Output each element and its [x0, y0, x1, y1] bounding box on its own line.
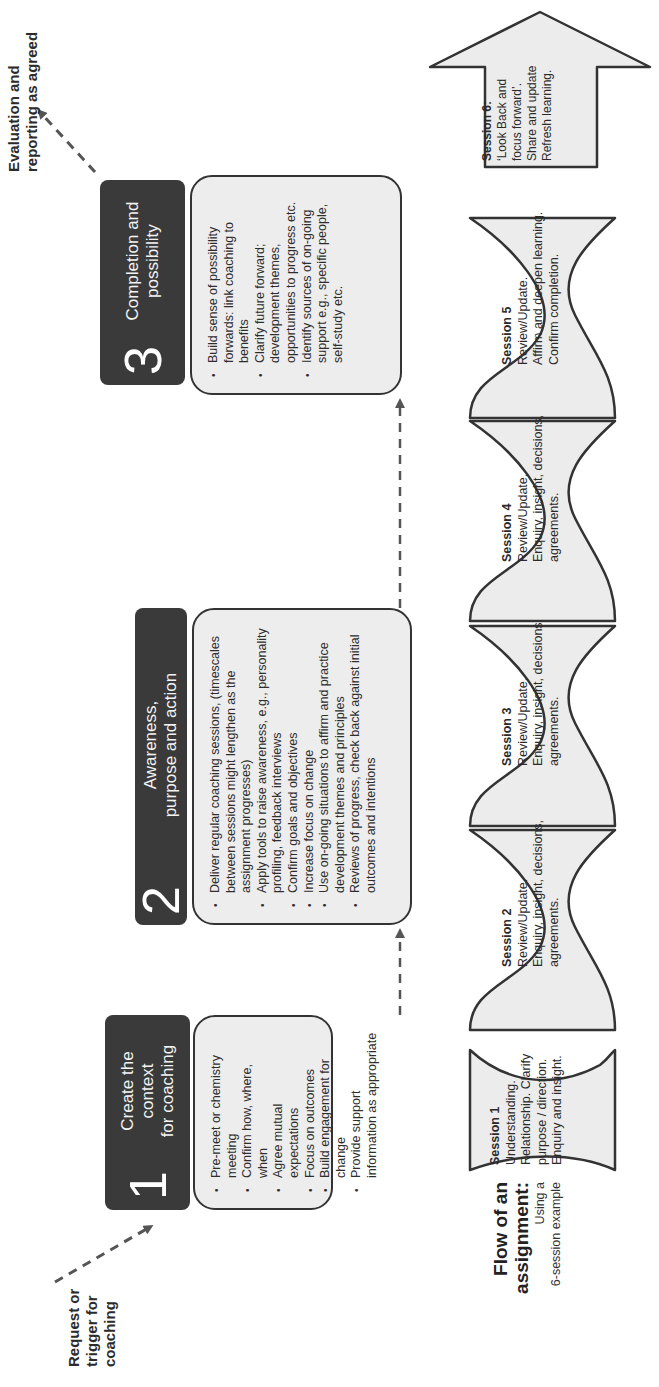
stage-1-header: 1 Create the context for coaching: [105, 1015, 190, 1210]
bullet-item: Clarify future forward; development them…: [253, 191, 300, 363]
bullet-item: Pre-meet or chemistry meeting: [209, 1031, 240, 1178]
stage-3-number: 3: [117, 346, 169, 375]
bullet-item: Build sense of possibility forwards: lin…: [206, 191, 253, 363]
bullet-item: Deliver regular coaching sessions, (time…: [208, 624, 255, 893]
bullet-item: Focus on outcomes: [303, 1031, 319, 1178]
exit-dashed-arrow: [40, 112, 95, 172]
session-6: Session 6: ‘Look Back and focus forward’…: [480, 61, 555, 161]
stage-1-bullets: Pre-meet or chemistry meeting Confirm ho…: [209, 1031, 381, 1194]
flow-title: Flow of an assignment:: [490, 1182, 532, 1332]
bullet-item: Provide support information as appropria…: [349, 1031, 380, 1178]
stage-3-body: Build sense of possibility forwards: lin…: [190, 175, 402, 395]
bullet-item: Confirm goals and objectives: [286, 624, 302, 893]
bullet-item: Increase focus on change: [302, 624, 318, 893]
bullet-item: Identify sources of on-going support e.g…: [300, 191, 347, 363]
stage-3-bullets: Build sense of possibility forwards: lin…: [206, 191, 346, 379]
stage-1-title: Create the context for coaching: [118, 1025, 178, 1157]
bullet-item: Use on-going situations to affirm and pr…: [317, 624, 348, 893]
entry-label: Request or trigger for coaching: [65, 1267, 119, 1367]
stage-3-title: Completion and possibility: [123, 190, 163, 332]
stage-2-number: 2: [135, 886, 187, 915]
session-2: Session 2 Review/Update. Enquiry, insigh…: [500, 797, 562, 967]
stage-2-header: 2 Awareness, purpose and action: [135, 608, 187, 925]
stage-2-bullets: Deliver regular coaching sessions, (time…: [208, 624, 380, 909]
stage-3-header: 3 Completion and possibility: [100, 180, 185, 385]
stage-2-title: Awareness, purpose and action: [141, 618, 181, 872]
exit-label: Evaluation and reporting as agreed: [5, 12, 41, 172]
bullet-item: Confirm how, where, when: [240, 1031, 271, 1178]
stage-2-body: Deliver regular coaching sessions, (time…: [192, 608, 412, 925]
session-5: Session 5 Review/Update. Affirm and deep…: [500, 195, 562, 365]
flow-subtitle: Using a 6-session example: [532, 1182, 564, 1332]
session-1: Session 1 Understanding. Relationship. C…: [488, 1025, 566, 1165]
coaching-process-diagram: Request or trigger for coaching Evaluati…: [0, 0, 659, 1387]
bullet-item: Build engagement for change: [318, 1031, 349, 1178]
session-4: Session 4 Review/Update. Enquiry, insigh…: [500, 392, 562, 562]
stage-1-body: Pre-meet or chemistry meeting Confirm ho…: [193, 1015, 333, 1210]
stage-1-number: 1: [122, 1171, 174, 1200]
flow-label: Flow of an assignment: Using a 6-session…: [490, 1182, 564, 1332]
bullet-item: Agree mutual expectations: [271, 1031, 302, 1178]
bullet-item: Apply tools to raise awareness, e.g., pe…: [255, 624, 286, 893]
session-3: Session 3 Review/Update. Enquiry, insigh…: [500, 596, 562, 766]
bullet-item: Reviews of progress, check back against …: [348, 624, 379, 893]
